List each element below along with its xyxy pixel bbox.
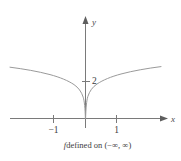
caption-domain-text: defined on (−∞, ∞) [66,140,131,150]
x-axis-arrow-icon [160,116,168,122]
y-axis-arrow-icon [83,16,89,24]
x-tick-label-pos1: 1 [114,125,119,135]
function-curve-right [86,67,161,119]
y-axis-label: y [91,17,96,27]
x-axis-label: x [170,114,175,124]
figure-caption-inner: fdefined on (−∞, ∞) [50,140,131,151]
x-tick-label-neg1: −1 [48,125,58,135]
function-curve-left [10,67,85,118]
plot-svg: y x −1 1 2 [0,0,181,161]
function-graph-figure: y x −1 1 2 fdefined on (−∞, ∞) [0,0,181,161]
figure-caption: fdefined on (−∞, ∞) [0,140,181,151]
y-tick-label-2: 2 [92,76,97,86]
